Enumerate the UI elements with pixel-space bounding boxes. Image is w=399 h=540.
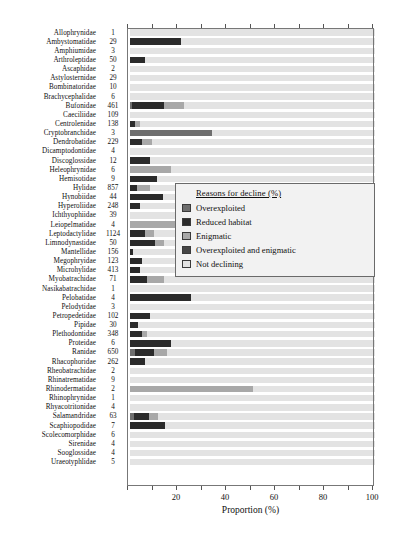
- legend-label: Reduced habitat: [196, 217, 252, 227]
- legend-swatch-icon: [182, 246, 191, 254]
- chart-row: Arthroleptidae50: [0, 55, 399, 64]
- family-label: Ranidae: [0, 348, 99, 356]
- bar-segment-enigmatic: [155, 240, 165, 246]
- bar-segment-reduced-habitat: [130, 194, 163, 200]
- legend-swatch-icon: [182, 260, 191, 268]
- family-label: Caeciliidae: [0, 111, 99, 119]
- species-count: 2: [99, 385, 127, 393]
- family-label: Limnodynastidae: [0, 239, 99, 247]
- bar-track: [130, 110, 375, 119]
- bar-segment-not-declining: [145, 57, 375, 63]
- bar-segment-not-declining: [130, 48, 375, 54]
- bar-segment-reduced-habitat: [130, 331, 142, 337]
- chart-row: Uraeotyphlidae5: [0, 458, 399, 467]
- x-tick: [348, 486, 349, 490]
- stacked-bar: [130, 377, 375, 383]
- x-tick: [372, 486, 373, 490]
- bar-track: [130, 55, 375, 64]
- stacked-bar: [130, 38, 375, 44]
- stacked-bar: [130, 450, 375, 456]
- x-tick: [299, 486, 300, 490]
- bar-track: [130, 458, 375, 467]
- species-count: 3: [99, 303, 127, 311]
- stacked-bar: [130, 176, 375, 182]
- x-tick-label: 20: [172, 492, 181, 502]
- bar-segment-not-declining: [147, 331, 375, 337]
- species-count: 123: [99, 257, 127, 265]
- species-count: 2: [99, 65, 127, 73]
- chart-row: Bufonidae461: [0, 101, 399, 110]
- stacked-bar: [130, 368, 375, 374]
- chart-row: Astylosternidae29: [0, 74, 399, 83]
- bar-segment-not-declining: [130, 84, 375, 90]
- family-label: Bombinatoridae: [0, 83, 99, 91]
- species-count: 63: [99, 412, 127, 420]
- species-count: 5: [99, 458, 127, 466]
- x-axis-top: [127, 28, 374, 29]
- stacked-bar: [130, 75, 375, 81]
- bar-segment-not-declining: [212, 130, 375, 136]
- stacked-bar: [130, 459, 375, 465]
- bar-track: [130, 165, 375, 174]
- family-label: Rhyacotritonidae: [0, 403, 99, 411]
- chart-row: Rhacophoridae262: [0, 357, 399, 366]
- x-tick: [250, 486, 251, 490]
- x-tick: [127, 486, 128, 490]
- x-tick-label: 100: [366, 492, 379, 502]
- bar-segment-reduced-habitat: [132, 102, 164, 108]
- family-label: Rheobatrachidae: [0, 367, 99, 375]
- bar-track: [130, 147, 375, 156]
- bar-segment-reduced-habitat: [130, 258, 142, 264]
- legend-swatch-icon: [182, 232, 191, 240]
- family-label: Rhinodermatidae: [0, 385, 99, 393]
- species-count: 229: [99, 138, 127, 146]
- family-label: Microhylidae: [0, 266, 99, 274]
- bar-segment-reduced-habitat: [130, 294, 191, 300]
- bar-segment-not-declining: [130, 404, 375, 410]
- bar-segment-not-declining: [164, 276, 375, 282]
- species-count: 71: [99, 275, 127, 283]
- bar-segment-not-declining: [130, 459, 375, 465]
- family-label: Rhinophrynidae: [0, 394, 99, 402]
- legend-item: Overexploited: [182, 201, 368, 215]
- bar-segment-not-declining: [130, 148, 375, 154]
- family-label: Leiopelmatidae: [0, 221, 99, 229]
- bar-track: [130, 421, 375, 430]
- bar-segment-reduced-habitat: [135, 349, 155, 355]
- species-count: 109: [99, 111, 127, 119]
- bar-segment-not-declining: [130, 368, 375, 374]
- stacked-bar: [130, 130, 375, 136]
- species-count: 102: [99, 312, 127, 320]
- family-label: Dicamptodontidae: [0, 147, 99, 155]
- chart-row: Sirenidae4: [0, 439, 399, 448]
- bar-track: [130, 37, 375, 46]
- family-label: Ambystomatidae: [0, 38, 99, 46]
- chart-row: Pipidae30: [0, 321, 399, 330]
- x-tick: [201, 486, 202, 490]
- stacked-bar: [130, 441, 375, 447]
- x-tick: [225, 24, 226, 28]
- chart-row: Ascaphidae2: [0, 65, 399, 74]
- stacked-bar: [130, 331, 375, 337]
- bar-track: [130, 339, 375, 348]
- species-count: 9: [99, 376, 127, 384]
- chart-row: Scolecomorphidae6: [0, 430, 399, 439]
- x-tick: [201, 24, 202, 28]
- chart-row: Bombinatoridae10: [0, 83, 399, 92]
- chart-row: Rhinophrynidae1: [0, 394, 399, 403]
- bar-segment-not-declining: [138, 322, 375, 328]
- bar-segment-not-declining: [181, 38, 375, 44]
- legend-items: OverexploitedReduced habitatEnigmaticOve…: [182, 201, 368, 271]
- chart-row: Pelobatidae4: [0, 293, 399, 302]
- chart-row: Cryptobranchidae3: [0, 129, 399, 138]
- species-count: 6: [99, 431, 127, 439]
- family-label: Cryptobranchidae: [0, 129, 99, 137]
- chart-row: Salamandridae63: [0, 412, 399, 421]
- family-label: Proteidae: [0, 339, 99, 347]
- x-tick: [176, 486, 177, 490]
- bar-track: [130, 156, 375, 165]
- species-count: 6: [99, 93, 127, 101]
- stacked-bar: [130, 112, 375, 118]
- bar-segment-reduced-habitat: [130, 358, 145, 364]
- stacked-bar: [130, 349, 375, 355]
